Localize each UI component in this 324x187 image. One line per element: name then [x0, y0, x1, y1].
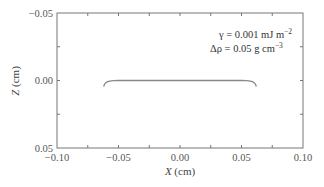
chart-figure: −0.10−0.050.000.050.10 −0.050.000.05 X (… — [0, 0, 324, 187]
x-tick-label: 0.00 — [171, 152, 189, 163]
y-tick-label: −0.05 — [29, 8, 53, 19]
x-tick-label: −0.10 — [45, 152, 69, 163]
x-tick-label: 0.10 — [294, 152, 312, 163]
annotation-rho-exponent: −3 — [275, 41, 283, 50]
x-tick-labels: −0.10−0.050.000.050.10 — [45, 152, 312, 163]
annotation-rho-text: Δρ = 0.05 g cm — [210, 43, 275, 54]
y-tick-label: 0.05 — [35, 143, 53, 154]
annotation-density-difference: Δρ = 0.05 g cm−3 — [210, 41, 283, 54]
annotation-surface-tension: γ = 0.001 mJ m−2 — [218, 27, 292, 40]
y-axis-label-unit: (cm) — [9, 66, 22, 90]
annotation-gamma-text: γ = 0.001 mJ m — [218, 29, 284, 40]
x-tick-label: 0.05 — [232, 152, 250, 163]
y-tick-label: 0.00 — [35, 75, 53, 86]
drop-profile-curve — [104, 81, 257, 87]
y-tick-labels: −0.050.000.05 — [29, 8, 53, 154]
x-axis-label-unit: (cm) — [172, 165, 196, 178]
annotation-gamma-exponent: −2 — [284, 27, 292, 36]
y-axis-label: Z (cm) — [9, 66, 22, 96]
x-tick-label: −0.05 — [106, 152, 130, 163]
x-axis-label: X (cm) — [164, 165, 196, 178]
